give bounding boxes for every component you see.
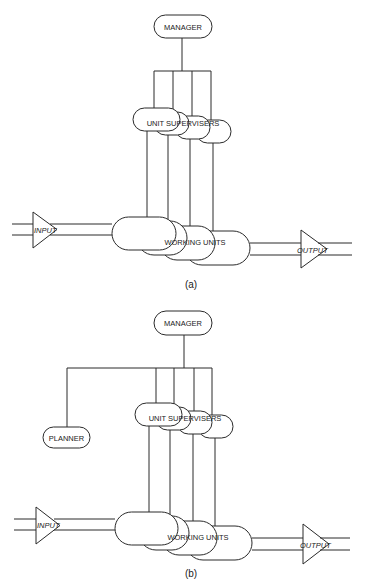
supervisers-label: UNIT SUPERVISERS	[147, 119, 220, 128]
working-units-b: WORKING UNITS	[115, 512, 252, 560]
diagram-a: MANAGER UNIT SUPERVISERS INPUT	[12, 15, 352, 290]
working-units-a: WORKING UNITS	[112, 217, 250, 265]
output-label: OUTPUT	[300, 541, 332, 550]
organization-diagram: MANAGER UNIT SUPERVISERS INPUT	[0, 0, 369, 582]
manager-node-a: MANAGER	[154, 15, 212, 38]
output-arrow-a: OUTPUT	[250, 230, 352, 268]
caption-a: (a)	[185, 279, 197, 290]
caption-b: (b)	[185, 568, 197, 579]
planner-node: PLANNER	[43, 427, 90, 448]
manager-label: MANAGER	[164, 23, 203, 32]
input-arrow-a: INPUT	[12, 212, 112, 248]
working-units-label: WORKING UNITS	[164, 238, 225, 247]
planner-label: PLANNER	[49, 434, 85, 443]
unit-supervisers-a: UNIT SUPERVISERS	[133, 108, 231, 143]
output-label: OUTPUT	[297, 246, 329, 255]
manager-label: MANAGER	[164, 319, 203, 328]
working-units-label: WORKING UNITS	[167, 533, 228, 542]
input-arrow-b: INPUT	[14, 507, 115, 544]
diagram-b: MANAGER PLANNER UNIT SUPERVISERS	[14, 311, 350, 579]
input-label: INPUT	[34, 226, 58, 235]
unit-supervisers-b: UNIT SUPERVISERS	[135, 403, 233, 438]
supervisers-label: UNIT SUPERVISERS	[149, 414, 222, 423]
manager-node-b: MANAGER	[154, 311, 212, 335]
output-arrow-b: OUTPUT	[252, 524, 350, 564]
input-label: INPUT	[37, 521, 61, 530]
